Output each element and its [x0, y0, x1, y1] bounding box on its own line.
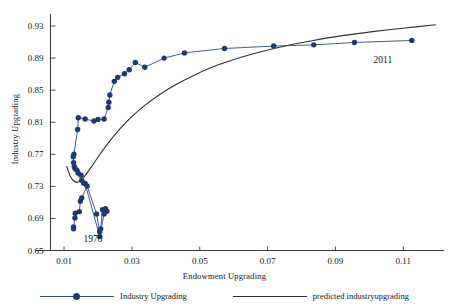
data-point-marker	[79, 195, 84, 200]
x-tick-label: 0.05	[192, 256, 208, 266]
data-point-marker	[107, 92, 112, 97]
data-point-marker	[71, 152, 76, 157]
x-tick-label: 0.07	[260, 256, 276, 266]
data-point-marker	[182, 50, 187, 55]
data-point-marker	[95, 117, 100, 122]
chart-annotation-label: 2011	[374, 55, 393, 65]
data-point-marker	[101, 116, 106, 121]
legend-label-industry-upgrading: Industry Upgrading	[120, 291, 187, 301]
data-point-marker	[142, 65, 147, 70]
x-tick-label: 0.03	[124, 256, 140, 266]
x-tick-label: 0.09	[328, 256, 344, 266]
y-axis-title: Industry Upgrading	[10, 74, 20, 184]
x-tick-label: 0.11	[396, 256, 411, 266]
data-point-marker	[222, 46, 227, 51]
y-tick-label: 0.81	[28, 117, 44, 127]
data-point-marker	[72, 215, 77, 220]
data-point-marker	[106, 99, 111, 104]
data-point-marker	[409, 38, 414, 43]
legend-line-icon	[233, 296, 307, 297]
chart-canvas: 0.650.690.730.770.810.850.890.93 0.010.0…	[0, 0, 449, 307]
y-tick-label: 0.65	[28, 246, 44, 256]
data-point-marker	[122, 71, 127, 76]
x-tick-label: 0.01	[56, 256, 72, 266]
legend-swatch-line-marker	[40, 292, 114, 301]
legend-label-predicted-industryupgrading: predicted industryupgrading	[313, 291, 409, 301]
x-axis-title: Endowment Upgrading	[0, 271, 449, 281]
y-tick-label: 0.93	[28, 21, 44, 31]
y-tick-label: 0.69	[28, 213, 44, 223]
data-point-marker	[352, 40, 357, 45]
data-point-marker	[271, 43, 276, 48]
data-point-marker	[71, 160, 76, 165]
y-tick-label: 0.73	[28, 181, 44, 191]
y-tick-label: 0.89	[28, 53, 44, 63]
chart-annotation-label: 1970	[83, 234, 102, 244]
data-point-marker	[82, 116, 87, 121]
data-point-marker	[105, 105, 110, 110]
legend-marker-dot-icon	[73, 293, 80, 300]
legend-item-predicted-industryupgrading[interactable]: predicted industryupgrading	[233, 291, 409, 301]
data-point-marker	[77, 209, 82, 214]
data-point-marker	[94, 211, 99, 216]
data-point-marker	[133, 60, 138, 65]
data-point-marker	[98, 226, 103, 231]
chart-legend: Industry Upgrading predicted industryupg…	[0, 288, 449, 304]
data-point-marker	[311, 42, 316, 47]
data-point-marker	[127, 67, 132, 72]
data-point-marker	[75, 127, 80, 132]
y-tick-label: 0.77	[28, 149, 44, 159]
data-point-marker	[101, 211, 106, 216]
data-point-marker	[76, 115, 81, 120]
legend-swatch-line	[233, 292, 307, 301]
data-point-marker	[79, 178, 84, 183]
y-tick-label: 0.85	[28, 85, 44, 95]
data-point-marker	[71, 224, 76, 229]
legend-item-industry-upgrading[interactable]: Industry Upgrading	[40, 291, 187, 301]
data-point-marker	[115, 75, 120, 80]
data-point-marker	[161, 55, 166, 60]
